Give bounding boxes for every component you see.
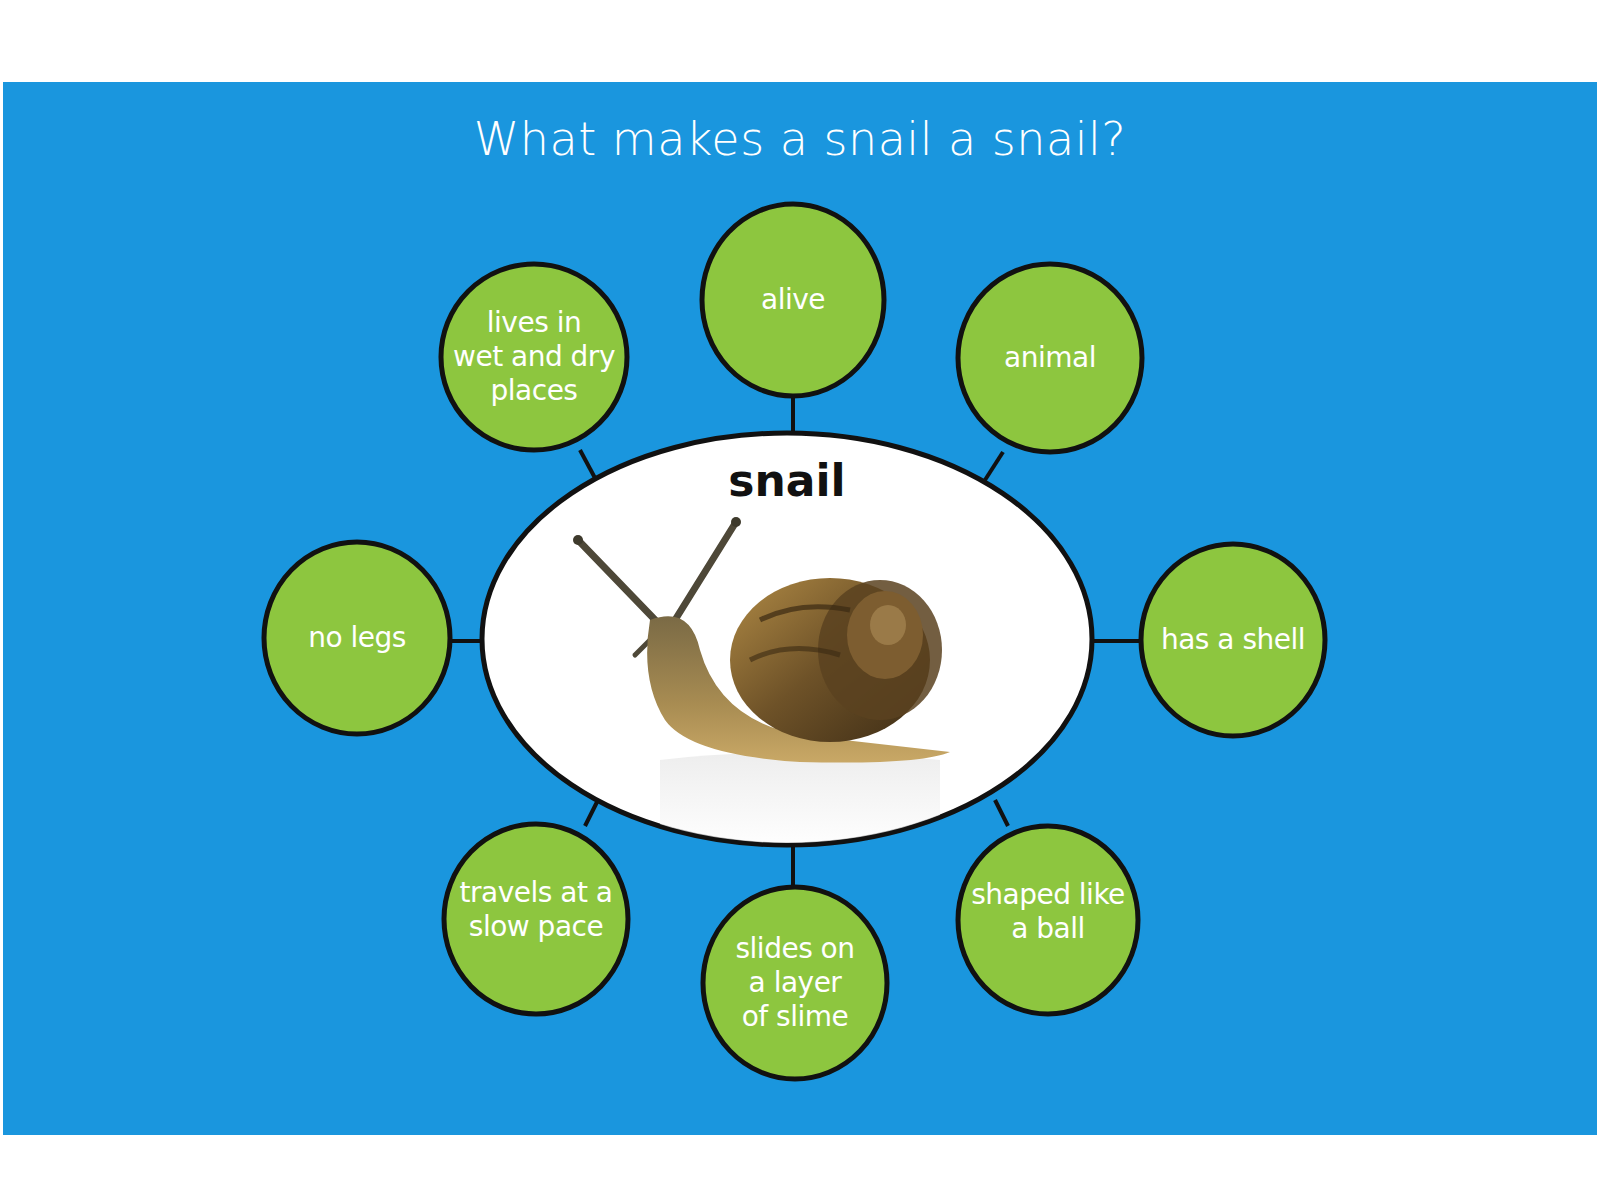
bubble-lives-wet-dry: lives in wet and dry places [441, 264, 627, 450]
bubble-animal: animal [958, 264, 1142, 452]
bubble-no-legs: no legs [264, 542, 450, 734]
bubble-has-a-shell: has a shell [1141, 544, 1325, 736]
center-label: snail [637, 455, 937, 506]
bubble-shaped-like-a-ball: shaped like a ball [958, 826, 1138, 998]
bubble-slides-on-slime: slides on a layer of slime [703, 887, 887, 1079]
bubble-alive: alive [703, 205, 883, 395]
bubble-travels-slow: travels at a slow pace [444, 824, 628, 996]
